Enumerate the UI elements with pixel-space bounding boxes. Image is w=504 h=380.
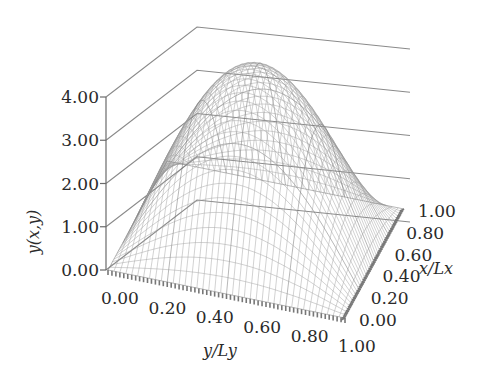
y-axis-title: y/Ly <box>202 341 238 360</box>
x-tick-label: 0.00 <box>359 310 397 330</box>
z-tick-label: 0.00 <box>61 260 99 280</box>
y-tick-label: 0.20 <box>148 298 186 318</box>
wall-gridline <box>106 200 410 270</box>
x-tick-label: 0.40 <box>383 266 421 286</box>
y-tick-label: 0.40 <box>196 307 234 327</box>
z-tick-label: 1.00 <box>61 217 99 237</box>
z-tick-label: 3.00 <box>61 130 99 150</box>
wall-gridline <box>106 27 410 97</box>
x-tick-label: 0.20 <box>371 288 409 308</box>
y-tick-label: 1.00 <box>338 336 376 356</box>
x-tick-label: 1.00 <box>418 201 456 221</box>
z-tick-label: 4.00 <box>61 87 99 107</box>
y-tick-label: 0.60 <box>243 317 281 337</box>
y-tick-label: 0.80 <box>291 326 329 346</box>
surface-mesh <box>108 62 404 318</box>
surface-plot: 0.001.002.003.004.000.000.200.400.600.80… <box>0 0 504 380</box>
x-tick-label: 0.80 <box>406 223 444 243</box>
x-axis-title: x/Lx <box>419 259 453 278</box>
y-tick-label: 0.00 <box>101 288 139 308</box>
z-axis-title: y(x,y) <box>24 210 43 256</box>
wall-gridline <box>106 114 410 184</box>
wall-gridline <box>106 70 410 140</box>
z-tick-label: 2.00 <box>61 174 99 194</box>
